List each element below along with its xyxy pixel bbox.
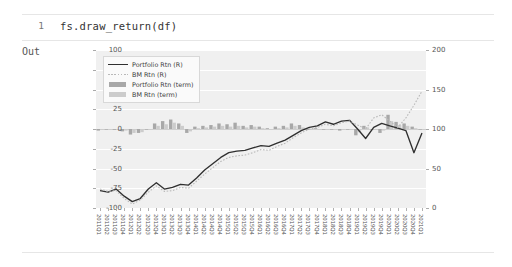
bar: [378, 129, 381, 133]
y-tick-label-right: 0: [432, 204, 466, 212]
bar: [338, 129, 341, 131]
y-tick-mark-left: [93, 129, 96, 130]
bar: [140, 129, 143, 132]
bar: [317, 129, 320, 130]
bar: [374, 129, 377, 130]
bar: [225, 124, 228, 129]
legend-item-portfolio-rtn-term: Portfolio Rtn (term): [108, 80, 194, 89]
bar: [173, 123, 176, 129]
x-tick-label: 2016Q4: [281, 214, 287, 235]
legend-item-portfolio-rtn-r: Portfolio Rtn (R): [108, 60, 194, 69]
bar: [354, 129, 357, 135]
cell-divider-top: [22, 14, 494, 15]
x-tick-label: 2017Q2: [297, 214, 303, 235]
x-tick-label: 2017Q1: [289, 214, 295, 235]
bar: [282, 126, 285, 129]
x-tick-label: 2012Q3: [145, 214, 151, 235]
x-tick-mark: [221, 208, 222, 211]
x-tick-label: 2018Q1: [322, 214, 328, 235]
x-tick-label: 2018Q3: [338, 214, 344, 235]
x-tick-mark: [172, 208, 173, 211]
bar: [132, 129, 135, 133]
x-tick-mark: [341, 208, 342, 211]
x-tick-label: 2015Q4: [249, 214, 255, 235]
x-tick-label: 2013Q3: [177, 214, 183, 235]
bar: [290, 123, 293, 129]
x-tick-mark: [148, 208, 149, 211]
bar: [137, 129, 140, 133]
x-tick-label: 2019Q3: [370, 214, 376, 235]
x-tick-mark: [181, 208, 182, 211]
x-tick-mark: [261, 208, 262, 211]
y-tick-mark-right: [426, 90, 429, 91]
x-tick-mark: [100, 208, 101, 211]
x-tick-mark: [366, 208, 367, 211]
x-tick-mark: [309, 208, 310, 211]
x-tick-mark: [398, 208, 399, 211]
bar: [314, 128, 317, 129]
bar: [148, 129, 151, 130]
x-tick-mark: [374, 208, 375, 211]
bar: [342, 129, 345, 130]
x-tick-label: 2019Q1: [354, 214, 360, 235]
bar: [153, 123, 156, 129]
cell-divider-mid: [22, 40, 494, 41]
legend-label: Portfolio Rtn (term): [132, 81, 194, 89]
bar: [419, 129, 422, 130]
code-text[interactable]: fs.draw_return(df): [60, 20, 177, 32]
bar: [346, 129, 349, 130]
x-tick-label: 2011Q3: [112, 214, 118, 235]
x-tick-label: 2015Q1: [225, 214, 231, 235]
bar: [322, 129, 325, 130]
y-tick-mark-left: [93, 169, 96, 170]
bar: [197, 128, 200, 129]
y-tick-mark-left: [93, 70, 96, 71]
bar: [193, 127, 196, 129]
y-tick-mark-left: [93, 149, 96, 150]
bar: [402, 123, 405, 129]
dotted-line-icon: [108, 71, 128, 79]
x-tick-mark: [414, 208, 415, 211]
bar: [274, 127, 277, 129]
bar: [422, 129, 425, 130]
x-tick-mark: [406, 208, 407, 211]
x-tick-mark: [269, 208, 270, 211]
y-tick-mark-right: [426, 129, 429, 130]
y-tick-mark-right: [426, 169, 429, 170]
bar: [325, 129, 328, 130]
bar: [237, 126, 240, 129]
x-tick-mark: [124, 208, 125, 211]
x-tick-label: 2020Q3: [402, 214, 408, 235]
bar: [164, 124, 167, 129]
x-tick-mark: [132, 208, 133, 211]
bar: [245, 127, 248, 129]
x-tick-mark: [116, 208, 117, 211]
bar: [221, 126, 224, 129]
x-tick-label: 2013Q1: [161, 214, 167, 235]
x-tick-label: 2013Q2: [169, 214, 175, 235]
code-cell[interactable]: 1 fs.draw_return(df): [0, 18, 512, 38]
x-tick-label: 2020Q4: [410, 214, 416, 235]
bar: [185, 129, 188, 133]
x-tick-label: 2017Q3: [305, 214, 311, 235]
x-tick-mark: [350, 208, 351, 211]
y-tick-label-right: 50: [432, 165, 466, 173]
bar: [414, 128, 417, 129]
y-tick-label-right: 200: [432, 46, 466, 54]
legend-item-bm-rtn-term: BM Rtn (term): [108, 90, 194, 99]
bar: [229, 127, 232, 129]
x-tick-mark: [253, 208, 254, 211]
bar: [217, 123, 220, 129]
bar: [189, 129, 192, 131]
x-tick-label: 2016Q1: [257, 214, 263, 235]
x-tick-label: 2011Q1: [96, 214, 102, 235]
legend-label: BM Rtn (term): [132, 91, 177, 99]
bar: [156, 126, 159, 129]
x-tick-mark: [285, 208, 286, 211]
bar: [386, 115, 389, 129]
x-tick-label: 2011Q2: [104, 214, 110, 235]
bar: [334, 129, 337, 130]
y-tick-mark-left: [93, 90, 96, 91]
x-tick-label: 2021Q1: [418, 214, 424, 235]
x-tick-label: 2020Q1: [386, 214, 392, 235]
